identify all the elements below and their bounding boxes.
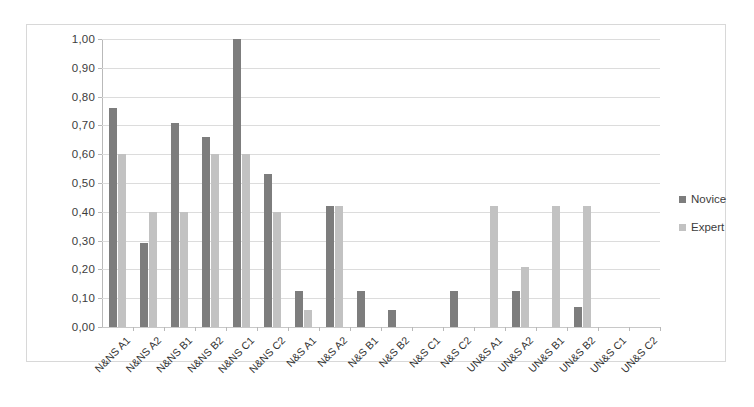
y-axis-label: 0,50: [72, 177, 95, 189]
y-axis-tick: [98, 241, 102, 242]
bar-novice: [574, 307, 582, 327]
x-axis-tick: [629, 327, 630, 331]
bar-expert: [552, 206, 560, 327]
bar-novice: [233, 39, 241, 327]
bar-group: [140, 39, 158, 327]
x-axis-tick: [443, 327, 444, 331]
bar-group: [109, 39, 127, 327]
y-axis-tick: [98, 154, 102, 155]
bar-novice: [264, 174, 272, 327]
chart-legend: NoviceExpert: [679, 193, 749, 249]
bar-expert: [583, 206, 591, 327]
bar-novice: [295, 291, 303, 327]
bar-novice: [202, 137, 210, 327]
x-axis-tick: [598, 327, 599, 331]
bar-group: [574, 39, 592, 327]
y-axis-tick: [98, 68, 102, 69]
bar-expert: [211, 154, 219, 327]
bar-novice: [388, 310, 396, 327]
bar-novice: [450, 291, 458, 327]
bar-group: [481, 39, 499, 327]
y-axis-label: 0,80: [72, 91, 95, 103]
x-axis-tick: [412, 327, 413, 331]
y-axis-tick: [98, 39, 102, 40]
x-axis-tick: [195, 327, 196, 331]
bar-novice: [140, 243, 148, 327]
bar-expert: [273, 212, 281, 327]
y-axis-label: 0,20: [72, 263, 95, 275]
bar-group: [543, 39, 561, 327]
y-axis-label: 0,00: [72, 321, 95, 333]
bar-expert: [521, 267, 529, 327]
x-axis-tick: [567, 327, 568, 331]
x-axis-tick: [257, 327, 258, 331]
x-axis-tick: [381, 327, 382, 331]
x-axis-tick: [505, 327, 506, 331]
bar-group: [419, 39, 437, 327]
bar-expert: [180, 212, 188, 327]
legend-item-novice[interactable]: Novice: [679, 193, 749, 205]
y-axis-tick: [98, 183, 102, 184]
bar-novice: [109, 108, 117, 327]
bar-group: [512, 39, 530, 327]
bar-novice: [357, 291, 365, 327]
y-axis-tick: [98, 125, 102, 126]
bar-group: [388, 39, 406, 327]
y-axis-label: 0,70: [72, 119, 95, 131]
x-axis-tick: [164, 327, 165, 331]
bar-group: [326, 39, 344, 327]
x-axis-tick: [288, 327, 289, 331]
y-axis-tick: [98, 269, 102, 270]
y-axis-label: 0,30: [72, 235, 95, 247]
bar-group: [233, 39, 251, 327]
bar-group: [450, 39, 468, 327]
x-axis-tick: [660, 327, 661, 331]
x-axis-tick: [226, 327, 227, 331]
y-axis-tick: [98, 212, 102, 213]
x-axis-tick: [350, 327, 351, 331]
y-axis-tick: [98, 298, 102, 299]
bar-group: [636, 39, 654, 327]
bar-novice: [171, 123, 179, 327]
bar-novice: [512, 291, 520, 327]
y-axis-label: 0,10: [72, 292, 95, 304]
bar-expert: [335, 206, 343, 327]
x-axis-tick: [319, 327, 320, 331]
bar-expert: [490, 206, 498, 327]
legend-swatch-icon: [679, 196, 686, 203]
x-axis-tick: [474, 327, 475, 331]
x-axis-tick: [133, 327, 134, 331]
chart-frame: 1,000,900,800,700,600,500,400,300,200,10…: [26, 24, 726, 362]
bar-group: [171, 39, 189, 327]
bar-expert: [118, 154, 126, 327]
x-axis-tick: [536, 327, 537, 331]
bar-expert: [304, 310, 312, 327]
y-axis-tick: [98, 97, 102, 98]
bar-group: [295, 39, 313, 327]
y-axis-tick: [98, 327, 102, 328]
y-axis-label: 1,00: [72, 33, 95, 45]
legend-item-expert[interactable]: Expert: [679, 221, 749, 233]
y-axis-label: 0,40: [72, 206, 95, 218]
bar-group: [264, 39, 282, 327]
bar-group: [202, 39, 220, 327]
legend-label: Novice: [691, 193, 726, 205]
plot-area: 1,000,900,800,700,600,500,400,300,200,10…: [102, 39, 660, 327]
legend-label: Expert: [691, 221, 724, 233]
y-axis-label: 0,90: [72, 62, 95, 74]
bar-group: [605, 39, 623, 327]
legend-swatch-icon: [679, 224, 686, 231]
bar-expert: [242, 154, 250, 327]
bar-expert: [149, 212, 157, 327]
y-axis-label: 0,60: [72, 148, 95, 160]
bar-novice: [326, 206, 334, 327]
bar-group: [357, 39, 375, 327]
